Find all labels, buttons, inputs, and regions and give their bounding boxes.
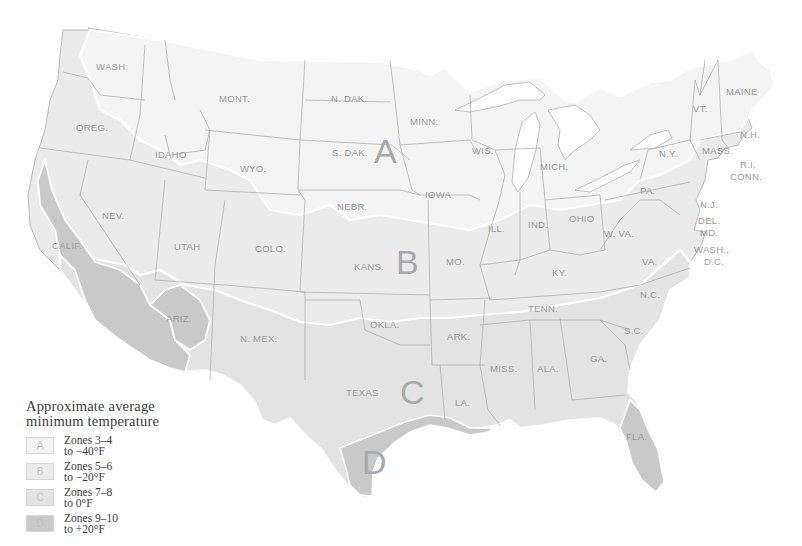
state-label-minn: MINN. [410, 116, 438, 127]
legend-b-line2: to −20°F [64, 472, 112, 483]
state-label-wis: WIS. [472, 145, 494, 156]
state-label-oreg: OREG. [76, 122, 108, 133]
state-label-nev: NEV. [102, 210, 125, 221]
state-label-colo: COLO. [255, 243, 286, 254]
state-label-w-va: W. VA. [604, 228, 634, 239]
legend-text-d: Zones 9–10 to +20°F [64, 513, 118, 534]
state-label-sc: S.C. [624, 325, 644, 336]
state-label-wash-dc-2: D.C. [704, 256, 724, 267]
zone-letter-a: A [374, 132, 397, 170]
state-label-idaho: IDAHO [155, 149, 187, 160]
zone-letter-d: D [362, 443, 387, 481]
legend-item-b: B Zones 5–6 to −20°F [26, 461, 206, 487]
state-label-ariz: ARIZ. [166, 313, 192, 324]
zone-letter-c: C [400, 373, 425, 411]
legend-b-line1: Zones 5–6 [64, 461, 112, 472]
legend-d-line2: to +20°F [64, 524, 118, 535]
state-label-ga: GA. [590, 353, 607, 364]
state-label-ala: ALA. [537, 363, 559, 374]
legend-item-a: A Zones 3–4 to −40°F [26, 435, 206, 461]
legend-swatch-c: C [26, 489, 54, 506]
state-label-ind: IND. [528, 219, 548, 230]
state-label-maine: MAINE [726, 86, 758, 97]
state-label-vt: VT. [693, 103, 708, 114]
state-label-wash-dc-1: WASH., [694, 244, 729, 255]
state-label-md: MD. [700, 227, 718, 238]
legend-title: Approximate average minimum temperature [26, 399, 206, 429]
legend-swatch-d: D [26, 515, 54, 532]
state-label-la: LA. [455, 397, 470, 408]
state-label-kans: KANS. [354, 261, 384, 272]
state-label-nj: N.J. [700, 199, 718, 210]
state-label-va: VA. [642, 256, 658, 267]
state-label-ill: ILL. [488, 223, 505, 234]
zone-letter-b: B [396, 243, 419, 281]
state-label-ky: KY. [552, 267, 567, 278]
state-label-s-dak: S. DAK. [332, 147, 368, 158]
state-label-miss: MISS. [490, 363, 517, 374]
legend-text-b: Zones 5–6 to −20°F [64, 461, 112, 482]
legend-d-line1: Zones 9–10 [64, 513, 118, 524]
state-label-mo: MO. [446, 256, 465, 267]
state-label-del: DEL. [698, 215, 720, 226]
legend-text-a: Zones 3–4 to −40°F [64, 435, 112, 456]
state-label-mich: MICH. [540, 161, 568, 172]
state-label-ark: ARK. [447, 331, 470, 342]
state-label-utah: UTAH [174, 241, 200, 252]
state-label-iowa: IOWA [425, 189, 452, 200]
state-label-nh: N.H. [740, 129, 760, 140]
legend-a-line1: Zones 3–4 [64, 435, 112, 446]
legend-swatch-a: A [26, 437, 54, 454]
state-label-ny: N.Y. [659, 148, 677, 159]
state-label-ohio: OHIO [569, 213, 594, 224]
state-label-wash: WASH. [96, 61, 128, 72]
legend-title-line2: minimum temperature [26, 414, 206, 429]
legend-c-line2: to 0°F [64, 498, 112, 509]
state-label-n-mex: N. MEX. [240, 333, 277, 344]
legend: Approximate average minimum temperature … [26, 399, 206, 539]
state-label-ri: R.I. [740, 159, 756, 170]
state-label-calif: CALIF. [52, 240, 82, 251]
state-label-tenn: TENN. [528, 303, 558, 314]
state-label-mass: MASS. [702, 145, 733, 156]
state-label-wyo: WYO. [240, 163, 267, 174]
state-label-pa: PA. [640, 185, 656, 196]
legend-swatch-b: B [26, 463, 54, 480]
state-label-fla: FLA. [626, 431, 647, 442]
legend-text-c: Zones 7–8 to 0°F [64, 487, 112, 508]
state-label-nc: N.C. [640, 289, 660, 300]
state-label-nebr: NEBR. [337, 201, 368, 212]
legend-a-line2: to −40°F [64, 446, 112, 457]
legend-title-line1: Approximate average [26, 399, 206, 414]
state-label-n-dak: N. DAK. [331, 93, 367, 104]
legend-item-d: D Zones 9–10 to +20°F [26, 513, 206, 539]
state-label-conn: CONN. [730, 171, 762, 182]
state-label-mont: MONT. [219, 93, 250, 104]
legend-c-line1: Zones 7–8 [64, 487, 112, 498]
state-label-texas: TEXAS [346, 387, 379, 398]
state-label-okla: OKLA. [370, 319, 400, 330]
legend-item-c: C Zones 7–8 to 0°F [26, 487, 206, 513]
